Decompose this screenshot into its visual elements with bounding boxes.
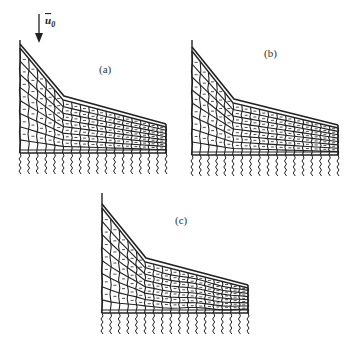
panel-label-a: (a) bbox=[99, 63, 112, 76]
mesh-panel-a: (a) bbox=[19, 40, 167, 174]
mesh-diagram: u0 (a)(b)(c) bbox=[0, 0, 358, 349]
mesh-panel-c: (c) bbox=[101, 193, 249, 334]
displacement-label: u0 bbox=[45, 14, 55, 29]
arrow-down-icon bbox=[35, 14, 43, 43]
mesh-panel-b: (b) bbox=[191, 40, 339, 176]
panel-label-c: (c) bbox=[175, 214, 188, 227]
panel-label-b: (b) bbox=[264, 47, 277, 60]
